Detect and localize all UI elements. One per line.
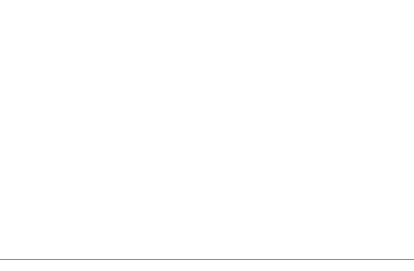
figure-panel xyxy=(0,0,414,271)
footer-divider xyxy=(0,259,414,260)
